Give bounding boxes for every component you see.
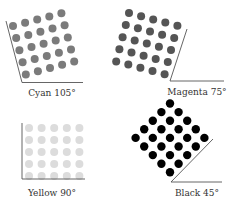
black-halftone-dot <box>192 142 200 150</box>
magenta-halftone-dot <box>161 70 169 78</box>
yellow-halftone-dot <box>38 148 46 156</box>
magenta-halftone-dot <box>128 49 136 57</box>
black-halftone-dot <box>166 151 174 159</box>
magenta-label: Magenta 75° <box>167 87 226 97</box>
panel-yellow: Yellow 90° <box>22 123 85 198</box>
cyan-halftone-dot <box>49 25 57 33</box>
panel-black: Black 45° <box>131 99 222 198</box>
magenta-halftone-dot <box>146 28 154 36</box>
black-halftone-dot <box>140 142 148 150</box>
black-halftone-dot <box>166 117 174 125</box>
magenta-angle-axis <box>170 29 224 81</box>
yellow-halftone-dot <box>75 160 83 168</box>
black-halftone-dot <box>174 125 182 133</box>
magenta-halftone-dot <box>158 31 166 39</box>
magenta-halftone-dot <box>152 55 160 63</box>
black-halftone-dot <box>149 117 157 125</box>
yellow-label: Yellow 90° <box>27 188 76 198</box>
yellow-halftone-dot <box>38 136 46 144</box>
black-halftone-dot <box>174 108 182 116</box>
magenta-halftone-dot <box>173 22 181 30</box>
black-halftone-dot <box>140 125 148 133</box>
magenta-halftone-dot <box>115 45 123 53</box>
magenta-halftone-dot <box>131 36 139 44</box>
cyan-halftone-dot <box>19 58 27 66</box>
yellow-halftone-dot <box>25 148 33 156</box>
yellow-halftone-dot <box>63 124 71 132</box>
magenta-halftone-dot <box>149 67 157 75</box>
halftone-screen-angles-diagram: Cyan 105° Magenta 75° Yellow 90° Black 4… <box>0 0 232 213</box>
yellow-halftone-dot <box>75 148 83 156</box>
black-halftone-dot <box>149 134 157 142</box>
black-halftone-dot <box>200 134 208 142</box>
cyan-halftone-dot <box>45 12 53 20</box>
yellow-halftone-dot <box>50 136 58 144</box>
black-halftone-dot <box>157 142 165 150</box>
cyan-halftone-dot <box>43 52 51 60</box>
black-halftone-dot <box>192 125 200 133</box>
black-halftone-dot <box>157 160 165 168</box>
yellow-halftone-dot <box>75 136 83 144</box>
cyan-halftone-dot <box>24 31 32 39</box>
cyan-halftone-dot <box>22 70 30 78</box>
yellow-halftone-dot <box>50 160 58 168</box>
black-halftone-dot <box>149 151 157 159</box>
magenta-halftone-dot <box>134 24 142 32</box>
magenta-halftone-dot <box>140 52 148 60</box>
yellow-halftone-dot <box>63 160 71 168</box>
magenta-halftone-dot <box>112 57 120 65</box>
yellow-halftone-dot <box>63 148 71 156</box>
black-halftone-dot <box>174 160 182 168</box>
cyan-halftone-dot <box>57 9 65 17</box>
cyan-halftone-dot <box>64 33 72 41</box>
cyan-halftone-dot <box>36 28 44 36</box>
cyan-halftone-dot <box>12 34 20 42</box>
cyan-label: Cyan 105° <box>28 88 76 98</box>
cyan-halftone-dot <box>33 16 41 24</box>
black-halftone-dot <box>157 108 165 116</box>
black-halftone-dot <box>131 134 139 142</box>
yellow-halftone-dot <box>50 148 58 156</box>
magenta-halftone-dot <box>167 46 175 54</box>
magenta-halftone-dot <box>125 9 133 17</box>
cyan-halftone-dot <box>28 43 36 51</box>
magenta-halftone-dot <box>155 43 163 51</box>
black-halftone-dot <box>183 117 191 125</box>
black-halftone-dot <box>166 134 174 142</box>
cyan-halftone-dot <box>15 46 23 54</box>
cyan-halftone-dot <box>31 55 39 63</box>
magenta-halftone-dot <box>161 19 169 27</box>
cyan-halftone-dot <box>40 40 48 48</box>
cyan-halftone-dot <box>9 22 17 30</box>
cyan-halftone-dot <box>58 61 66 69</box>
magenta-halftone-dot <box>136 64 144 72</box>
yellow-halftone-dot <box>63 136 71 144</box>
cyan-halftone-dot <box>52 37 60 45</box>
panel-magenta: Magenta 75° <box>112 9 226 97</box>
black-label: Black 45° <box>175 188 219 198</box>
panel-cyan: Cyan 105° <box>6 9 83 98</box>
yellow-halftone-dot <box>75 124 83 132</box>
yellow-halftone-dot <box>25 124 33 132</box>
cyan-halftone-dot <box>61 21 69 29</box>
cyan-halftone-dot <box>70 58 78 66</box>
magenta-halftone-dot <box>119 33 127 41</box>
black-dot-grid <box>131 99 208 176</box>
cyan-halftone-dot <box>34 67 42 75</box>
yellow-dot-grid <box>25 124 83 180</box>
magenta-halftone-dot <box>143 40 151 48</box>
cyan-halftone-dot <box>55 49 63 57</box>
cyan-halftone-dot <box>46 64 54 72</box>
yellow-halftone-dot <box>25 160 33 168</box>
yellow-halftone-dot <box>38 160 46 168</box>
magenta-dot-grid <box>112 9 181 78</box>
magenta-halftone-dot <box>137 12 145 20</box>
yellow-halftone-dot <box>38 124 46 132</box>
magenta-halftone-dot <box>164 58 172 66</box>
black-halftone-dot <box>183 134 191 142</box>
black-halftone-dot <box>157 125 165 133</box>
cyan-halftone-dot <box>21 19 29 27</box>
black-halftone-dot <box>166 99 174 107</box>
magenta-halftone-dot <box>124 61 132 69</box>
magenta-halftone-dot <box>122 21 130 29</box>
